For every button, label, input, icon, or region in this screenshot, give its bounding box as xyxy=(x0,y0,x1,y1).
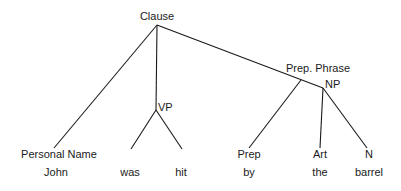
edge-clause-vp xyxy=(156,25,157,110)
edge-clause-np xyxy=(157,25,323,88)
word-the: the xyxy=(312,166,327,178)
edge-vp-hit xyxy=(156,110,182,149)
edge-np-art xyxy=(320,88,323,148)
node-vp: VP xyxy=(158,101,173,113)
node-prep-phrase: Prep. Phrase xyxy=(286,62,350,74)
word-john: John xyxy=(44,166,68,178)
edge-clause-personal-name xyxy=(54,25,157,148)
node-art: Art xyxy=(313,148,327,160)
word-barrel: barrel xyxy=(355,166,383,178)
word-hit: hit xyxy=(175,166,187,178)
edge-np-n xyxy=(323,88,367,148)
word-was: was xyxy=(120,166,140,178)
node-n: N xyxy=(365,148,373,160)
word-by: by xyxy=(243,166,255,178)
node-prep: Prep xyxy=(237,148,260,160)
node-personal-name: Personal Name xyxy=(21,148,97,160)
node-np: NP xyxy=(325,78,340,90)
edge-vp-was xyxy=(131,110,156,149)
tree-edges xyxy=(0,0,401,191)
edge-prep-phrase-prep xyxy=(249,80,301,148)
node-clause: Clause xyxy=(140,10,174,22)
